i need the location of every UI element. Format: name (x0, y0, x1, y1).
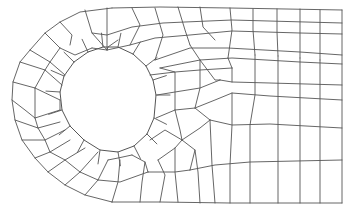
mesh-diagram (0, 0, 352, 215)
